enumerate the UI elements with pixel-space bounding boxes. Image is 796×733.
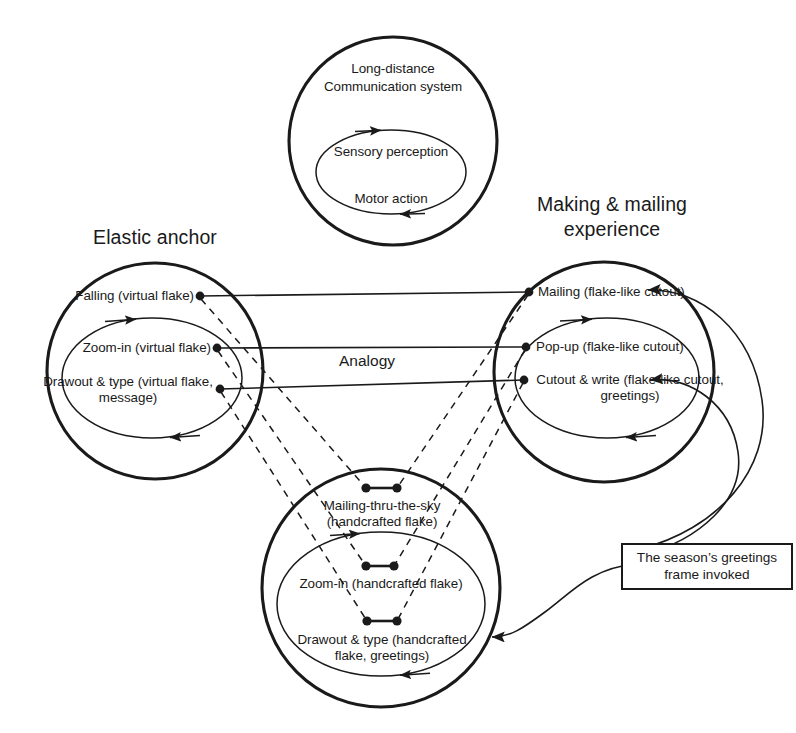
blend-node-label-3: Drawout & type (handcrafted flake, greet… xyxy=(284,632,480,664)
right-space-title-line1: Making & mailing xyxy=(514,193,710,216)
blend-dumbbell-1 xyxy=(361,483,401,492)
right-space-title-line2: experience xyxy=(514,218,710,241)
analogy-line-2 xyxy=(217,347,526,348)
left-node-label-1: Falling (virtual flake) xyxy=(52,288,194,304)
dashed-right-1 xyxy=(397,295,528,488)
analogy-label: Analogy xyxy=(305,352,429,370)
left-space-title: Elastic anchor xyxy=(65,226,245,249)
top-space-inner-item-1: Sensory perception xyxy=(303,144,479,160)
diagram-canvas: Long-distance Communication system Senso… xyxy=(0,0,796,733)
blend-node-label-1: Mailing-thru-the-sky (handcrafted flake) xyxy=(292,498,472,530)
top-space-title-line1: Long-distance xyxy=(305,61,481,77)
analogy-mapping-lines xyxy=(200,292,529,389)
analogy-line-3 xyxy=(220,380,524,389)
right-node-label-3: Cutout & write (flake-like cutout, greet… xyxy=(533,372,727,404)
projection-dashed-lines xyxy=(201,295,528,621)
callout-text: The season’s greetings frame invoked xyxy=(637,550,777,584)
left-node-label-2: Zoom-in (virtual flake) xyxy=(62,340,211,356)
callout-arrow-to-blend xyxy=(492,564,636,637)
blend-dumbbell-3 xyxy=(362,616,401,625)
top-space-cycle-arrow-bottom xyxy=(400,213,425,214)
top-space-title-line2: Communication system xyxy=(305,79,481,95)
analogy-line-1 xyxy=(200,292,529,296)
dashed-left-1 xyxy=(201,299,366,488)
bottom-space-cycle-arrow-bottom xyxy=(400,673,430,675)
callout-box: The season’s greetings frame invoked xyxy=(621,543,793,590)
right-space-cycle-arrow-top xyxy=(560,319,592,321)
dashed-left-2 xyxy=(218,351,366,566)
right-node-label-2: Pop-up (flake-like cutout) xyxy=(536,339,722,355)
right-node-label-1: Mailing (flake-like cutout) xyxy=(538,284,724,300)
blend-node-label-2: Zoom-in (handcrafted flake) xyxy=(291,576,471,592)
top-space-inner-item-2: Motor action xyxy=(303,191,479,207)
blend-dumbbell-2 xyxy=(361,561,398,570)
left-node-label-3: Drawout & type (virtual flake, message) xyxy=(42,374,214,406)
